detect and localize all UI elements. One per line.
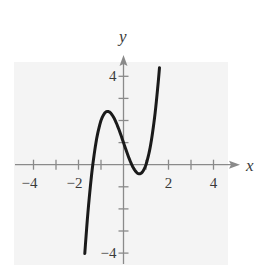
cubic-function-graph: −4−2244−4 x y	[0, 0, 269, 271]
x-tick-label: −2	[67, 175, 83, 191]
y-tick-label: 4	[109, 68, 117, 84]
y-axis-label: y	[117, 27, 127, 46]
x-tick-label: −4	[22, 175, 38, 191]
x-axis-label: x	[245, 156, 254, 175]
y-tick-label: −4	[101, 245, 117, 261]
x-tick-label: 2	[165, 175, 173, 191]
x-tick-label: 4	[210, 175, 218, 191]
plot-background	[14, 62, 228, 265]
